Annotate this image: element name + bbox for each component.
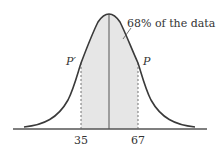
normal-curve-chart: 68% of the data P′ P 35 67: [0, 0, 216, 152]
point-label-p: P: [142, 55, 151, 68]
tick-label-35: 35: [74, 134, 88, 147]
point-label-p-prime: P′: [65, 55, 76, 68]
annotation-label: 68% of the data: [127, 17, 216, 30]
tick-label-67: 67: [131, 134, 145, 147]
